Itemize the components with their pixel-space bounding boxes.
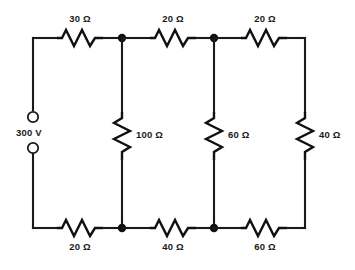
source-terminal-bottom[interactable] xyxy=(28,143,38,153)
resistor-zigzag xyxy=(57,30,103,46)
label-r-bot-2: 40 Ω xyxy=(162,241,184,252)
circuit-canvas: 30 Ω 20 Ω 20 Ω 100 Ω 60 Ω 40 Ω 20 Ω 40 Ω… xyxy=(0,0,355,270)
label-r-shunt-3: 40 Ω xyxy=(319,129,341,140)
label-r-bot-3: 60 Ω xyxy=(254,241,276,252)
source-terminal-top[interactable] xyxy=(28,112,38,122)
circuit-diagram: 30 Ω 20 Ω 20 Ω 100 Ω 60 Ω 40 Ω 20 Ω 40 Ω… xyxy=(0,0,355,270)
label-r-shunt-2: 60 Ω xyxy=(228,129,250,140)
resistor-r-bot-1 xyxy=(57,220,103,236)
resistor-zigzag xyxy=(206,112,222,160)
resistor-zigzag xyxy=(57,220,103,236)
label-r-shunt-1: 100 Ω xyxy=(136,129,163,140)
resistor-r-top-2 xyxy=(150,30,196,46)
resistor-r-shunt-3 xyxy=(297,112,313,160)
resistor-r-shunt-1 xyxy=(114,112,130,160)
resistor-zigzag xyxy=(241,30,287,46)
resistor-zigzag xyxy=(241,220,287,236)
label-r-top-2: 20 Ω xyxy=(162,13,184,24)
resistor-r-bot-3 xyxy=(241,220,287,236)
label-r-bot-1: 20 Ω xyxy=(69,241,91,252)
resistor-r-bot-2 xyxy=(150,220,196,236)
resistor-zigzag xyxy=(297,112,313,160)
resistor-zigzag xyxy=(150,220,196,236)
resistor-r-shunt-2 xyxy=(206,112,222,160)
label-source-voltage: 300 V xyxy=(16,127,42,138)
resistor-zigzag xyxy=(114,112,130,160)
resistor-r-top-1 xyxy=(57,30,103,46)
label-r-top-3: 20 Ω xyxy=(254,13,276,24)
resistor-zigzag xyxy=(150,30,196,46)
label-r-top-1: 30 Ω xyxy=(69,13,91,24)
resistor-r-top-3 xyxy=(241,30,287,46)
